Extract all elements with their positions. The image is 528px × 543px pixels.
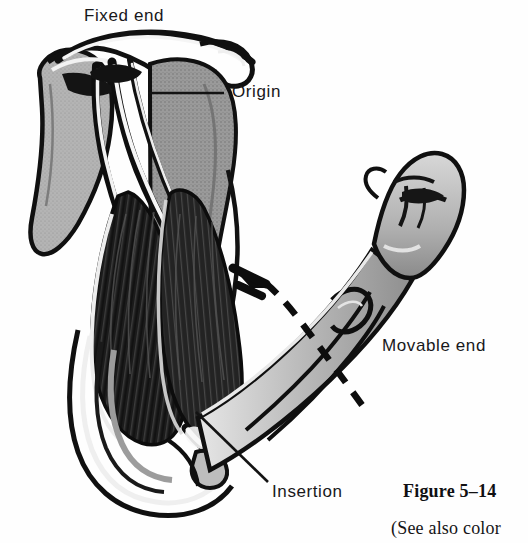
label-insertion: Insertion — [272, 482, 343, 502]
figure-number-caption: Figure 5–14 — [403, 481, 496, 502]
label-movable-end: Movable end — [382, 336, 486, 356]
label-origin: Origin — [232, 82, 281, 102]
label-fixed-end: Fixed end — [84, 6, 164, 26]
figure-page: Fixed end Origin Movable end Insertion F… — [0, 0, 528, 543]
figure-caption-continued: (See also color — [391, 518, 501, 539]
